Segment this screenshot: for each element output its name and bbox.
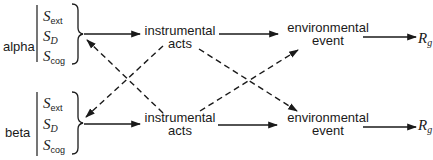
svg-text:Sext: Sext xyxy=(43,95,63,113)
beta-stimulus-d: SD xyxy=(43,116,59,134)
beta-response: Rg xyxy=(417,117,432,135)
alpha-event-line2: event xyxy=(312,33,344,48)
svg-text:Sext: Sext xyxy=(43,8,63,26)
alpha-brace xyxy=(72,4,83,64)
alpha-response: Rg xyxy=(417,30,432,48)
beta-event-line2: event xyxy=(312,123,344,138)
dashed-arrow-alpha-act-to-beta-stimuli xyxy=(86,46,163,117)
alpha-act-line2: acts xyxy=(168,36,192,51)
beta-group: beta Sext SD Scog instrumental acts envi… xyxy=(5,92,432,156)
dashed-arrow-beta-act-to-alpha-stimuli xyxy=(87,40,163,113)
beta-act-line1b: acts xyxy=(168,123,192,138)
alpha-stimulus-d: SD xyxy=(43,28,59,46)
dashed-arrow-beta-act-to-alpha-event xyxy=(200,50,298,111)
svg-text:Rg: Rg xyxy=(417,117,432,135)
dashed-arrow-alpha-act-to-beta-event xyxy=(199,49,297,111)
alpha-stimulus-cog: Scog xyxy=(43,48,65,66)
alpha-label: alpha xyxy=(3,39,36,54)
svg-text:Rg: Rg xyxy=(417,30,432,48)
svg-text:SD: SD xyxy=(43,28,59,46)
svg-text:Scog: Scog xyxy=(43,48,65,66)
beta-label: beta xyxy=(5,125,31,140)
alpha-group: alpha Sext SD Scog instrumental acts env… xyxy=(3,4,432,66)
beta-stimulus-cog: Scog xyxy=(43,137,65,155)
svg-text:Scog: Scog xyxy=(43,137,65,155)
stimulus-response-diagram: alpha Sext SD Scog instrumental acts env… xyxy=(0,0,433,160)
beta-stimulus-ext: Sext xyxy=(43,95,63,113)
svg-text:SD: SD xyxy=(43,116,59,134)
beta-brace xyxy=(72,92,83,154)
alpha-stimulus-ext: Sext xyxy=(43,8,63,26)
